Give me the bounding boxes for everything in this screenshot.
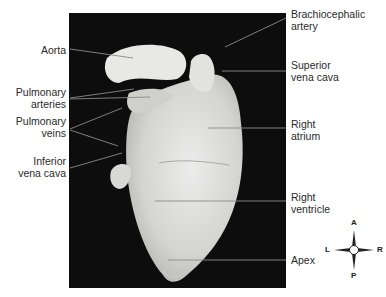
compass-anterior: A [351, 218, 357, 227]
label-pulmonary-arteries: Pulmonary arteries [0, 86, 66, 110]
label-right-atrium: Right atrium [291, 118, 386, 142]
orientation-compass: A P L R [322, 220, 382, 280]
label-aorta: Aorta [6, 44, 66, 56]
compass-right: R [377, 245, 383, 254]
label-pulmonary-veins: Pulmonary veins [0, 115, 66, 139]
compass-left: L [325, 245, 330, 254]
label-brachiocephalic-artery: Brachiocephalic artery [291, 8, 386, 32]
compass-posterior: P [351, 271, 356, 280]
label-right-ventricle: Right ventricle [291, 191, 386, 215]
label-superior-vena-cava: Superior vena cava [291, 59, 386, 83]
label-inferior-vena-cava: Inferior vena cava [0, 155, 66, 179]
